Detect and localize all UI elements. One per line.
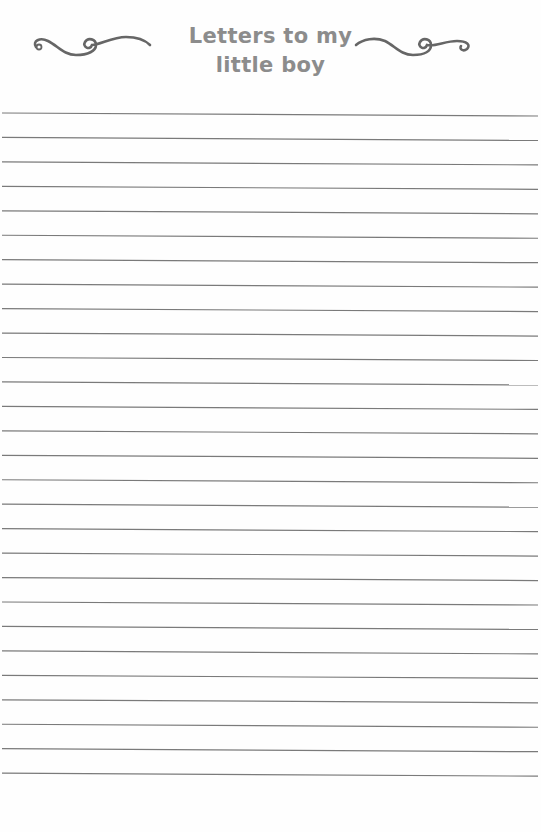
ruled-line xyxy=(2,553,538,556)
ruled-line xyxy=(2,137,538,140)
ruled-writing-lines xyxy=(0,0,541,832)
ruled-line xyxy=(2,382,538,385)
ruled-line xyxy=(2,675,538,678)
ruled-line xyxy=(2,358,538,361)
ruled-line xyxy=(2,700,538,703)
ruled-line xyxy=(2,162,538,165)
ruled-line xyxy=(2,309,538,312)
ruled-line xyxy=(2,284,538,287)
ruled-line xyxy=(2,773,538,776)
ruled-line xyxy=(2,431,538,434)
ruled-line xyxy=(2,504,538,507)
ruled-line xyxy=(2,260,538,263)
ruled-line xyxy=(2,406,538,409)
ruled-line xyxy=(2,602,538,605)
ruled-line xyxy=(2,651,538,654)
ruled-line xyxy=(2,480,538,483)
ruled-line xyxy=(2,724,538,727)
ruled-line xyxy=(2,626,538,629)
ruled-line xyxy=(2,749,538,752)
ruled-line xyxy=(2,235,538,238)
ruled-line xyxy=(2,333,538,336)
ruled-line xyxy=(2,455,538,458)
ruled-line xyxy=(2,186,538,189)
ruled-line xyxy=(2,113,538,116)
ruled-line xyxy=(2,211,538,214)
ruled-line xyxy=(2,578,538,581)
ruled-line xyxy=(2,529,538,532)
